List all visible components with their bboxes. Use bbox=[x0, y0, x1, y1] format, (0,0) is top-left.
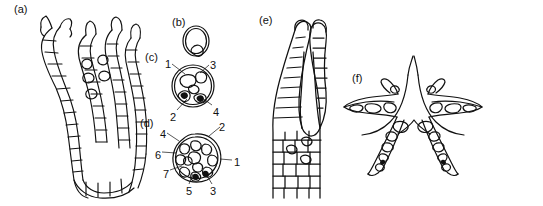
panel-caption-e: (e) bbox=[259, 15, 272, 26]
panel-caption-b: (b) bbox=[172, 17, 185, 28]
panel-caption-d: (d) bbox=[140, 118, 153, 129]
panel-d-label-4: 4 bbox=[160, 129, 166, 140]
panel-d-label-1: 1 bbox=[234, 157, 240, 168]
figure-canvas: (a) (b) (c) (d) (e) (f) 1 2 3 4 1 2 3 4 … bbox=[0, 0, 543, 206]
panel-c-drawing bbox=[172, 65, 214, 107]
panel-caption-c: (c) bbox=[145, 52, 158, 63]
panel-d-label-2: 2 bbox=[219, 122, 225, 133]
panel-f-drawing bbox=[344, 56, 482, 175]
panel-c-label-2: 2 bbox=[170, 112, 176, 123]
panel-c-label-1: 1 bbox=[165, 59, 171, 70]
panel-caption-a: (a) bbox=[14, 4, 27, 15]
panel-caption-f: (f) bbox=[352, 73, 362, 84]
panel-c-label-4: 4 bbox=[213, 107, 219, 118]
panel-c-label-3: 3 bbox=[210, 60, 216, 71]
panel-d-label-6: 6 bbox=[155, 150, 161, 161]
panel-d-drawing bbox=[173, 134, 221, 182]
panel-d-label-3: 3 bbox=[210, 186, 216, 197]
panel-d-label-7: 7 bbox=[163, 169, 169, 180]
panel-a-drawing bbox=[41, 16, 147, 198]
panel-e-drawing bbox=[273, 20, 327, 198]
panel-b-drawing bbox=[183, 26, 209, 56]
panel-d-label-5: 5 bbox=[186, 186, 192, 197]
figure-linework bbox=[0, 0, 543, 206]
